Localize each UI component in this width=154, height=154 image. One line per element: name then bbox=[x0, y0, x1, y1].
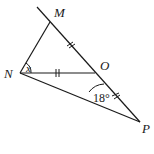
angle-label-x: x bbox=[25, 62, 31, 74]
line-mp-extended bbox=[37, 7, 140, 122]
angle-label-18: 18° bbox=[93, 91, 110, 105]
label-m: M bbox=[53, 5, 66, 20]
triangle-figure: M N O P x 18° bbox=[0, 0, 154, 154]
label-n: N bbox=[3, 66, 14, 81]
label-o: O bbox=[100, 58, 110, 73]
label-p: P bbox=[141, 121, 150, 136]
geometry-diagram: M N O P x 18° bbox=[0, 0, 154, 154]
segment-mn bbox=[20, 22, 50, 73]
segment-np bbox=[20, 73, 140, 122]
